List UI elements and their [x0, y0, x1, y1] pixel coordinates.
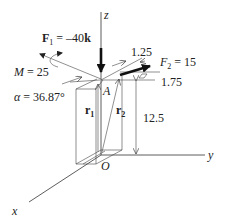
offset-lines: [101, 58, 160, 80]
statics-force-diagram: z y x O r1 r2 A F1 = –40k: [0, 0, 228, 224]
angle-alpha: α = 36.87°: [14, 77, 100, 104]
f1-label: F1 = –40k: [42, 31, 91, 47]
z-axis-label: z: [103, 8, 109, 22]
moment-label: M = 25: [13, 65, 49, 79]
moment-m: M = 25: [13, 53, 101, 79]
x-axis: [29, 155, 101, 202]
f2-label: F2 = 15: [159, 55, 196, 71]
x-axis-label: x: [11, 204, 18, 218]
column-box: [76, 76, 122, 164]
dimension-1-75: 1.75: [161, 75, 182, 89]
dimension-12-5: 12.5: [143, 111, 164, 125]
r1-label: r1: [85, 103, 94, 119]
moment-curl-arrow: [50, 53, 62, 67]
point-a-label: A: [102, 84, 111, 98]
dimension-1-25: 1.25: [131, 45, 152, 59]
alpha-label: α = 36.87°: [14, 90, 65, 104]
force-f1: F1 = –40k: [42, 31, 101, 72]
y-axis-label: y: [207, 148, 214, 162]
moment-axis-line: [40, 54, 101, 79]
origin-label: O: [101, 159, 110, 173]
r2-label: r2: [116, 103, 125, 119]
